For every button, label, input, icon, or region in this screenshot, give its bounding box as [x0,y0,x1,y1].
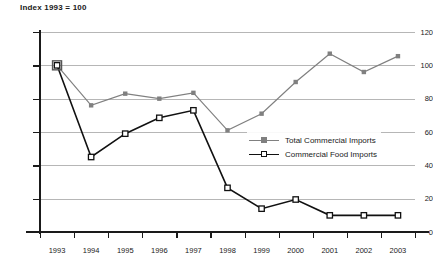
legend-label: Commercial Food Imports [285,150,377,159]
data-point-marker [259,206,264,211]
data-point-marker [123,91,127,95]
data-point-marker [225,128,229,132]
series-line [57,54,398,131]
chart-container: Index 1993 = 100 120 100 80 60 40 20 0 1… [0,0,433,265]
legend-item-commercial-food-imports[interactable]: Commercial Food Imports [249,147,377,161]
data-point-marker [293,80,297,84]
data-point-marker [123,131,128,136]
data-point-marker [157,115,162,120]
data-point-marker [54,63,59,68]
data-point-marker [396,54,400,58]
data-point-marker [191,91,195,95]
data-point-marker [259,111,263,115]
data-point-marker [361,213,366,218]
legend-label: Total Commercial Imports [285,136,376,145]
data-point-marker [191,108,196,113]
data-point-marker [293,197,298,202]
data-point-marker [225,185,230,190]
series-total-commercial-imports [55,51,400,132]
data-point-marker [89,103,93,107]
legend-swatch-food-icon [249,149,279,159]
data-point-marker [327,213,332,218]
data-point-marker [395,213,400,218]
data-point-marker [88,154,93,159]
data-point-marker [157,96,161,100]
data-point-marker [328,51,332,55]
data-point-marker [362,70,366,74]
chart-legend: Total Commercial Imports Commercial Food… [247,131,381,164]
legend-item-total-commercial-imports[interactable]: Total Commercial Imports [249,133,377,147]
legend-swatch-total-icon [249,135,279,145]
